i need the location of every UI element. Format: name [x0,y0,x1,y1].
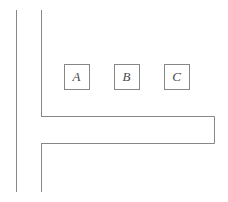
diagram-canvas [0,0,228,202]
box-c-label: C [164,64,189,89]
box-b-label: B [114,64,139,89]
box-a-label: A [64,64,89,89]
diagram-root: A B C [0,0,228,202]
